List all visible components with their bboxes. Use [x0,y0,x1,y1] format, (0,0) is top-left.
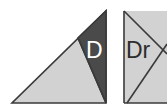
diagram-panel-left: D [0,0,110,112]
diagram-panel-right: Dr [117,0,167,112]
region-label-dr: Dr [126,37,151,63]
region-label-d: D [86,37,103,63]
figure-root: D Dr [0,0,167,112]
left-triangle-svg: D [0,0,110,112]
right-triangle-svg: Dr [117,0,167,112]
